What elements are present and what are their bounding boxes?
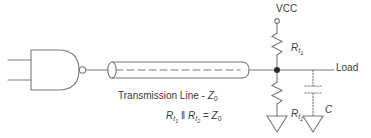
resistor-rt1-label: Rt1 [291,38,303,56]
capacitor-c [305,70,321,116]
termination-formula-label: Rt1 ‖ Rt2 = Z0 [166,106,222,124]
rt2-index-subscript: 2 [300,116,303,122]
formula-equals-sign: = [200,110,211,121]
capacitor-label: C [325,105,332,115]
nand-gate [31,50,79,90]
resistor-rt2-label: Rt2 [291,104,303,122]
transmission-line-cylinder [108,62,249,78]
load-label: Load [336,63,358,73]
transmission-line-circuit-diagram: VCC Load Rt1 Rt2 C Transmission Line - Z… [0,0,371,138]
inversion-bubble [79,67,85,73]
resistor-rt1 [272,33,282,55]
transmission-line-label: Transmission Line - Z0 [118,86,218,102]
formula-parallel-operator: ‖ [178,110,188,121]
resistor-rt2 [272,82,282,104]
vcc-label: VCC [276,4,297,14]
nand-gate-body [31,50,79,90]
rt1-index-subscript: 1 [300,50,303,56]
vcc-terminal-circle [275,19,280,24]
tline-left-cap [108,62,116,78]
tline-label-text: Transmission Line - [118,90,208,101]
formula-z-subscript: 0 [218,115,222,122]
tline-right-cap [242,62,249,78]
ground-symbol-capacitor [303,116,323,132]
ground-symbol-rt2 [267,116,287,132]
tline-z-subscript: 0 [214,95,218,102]
junction-dot [274,67,280,73]
